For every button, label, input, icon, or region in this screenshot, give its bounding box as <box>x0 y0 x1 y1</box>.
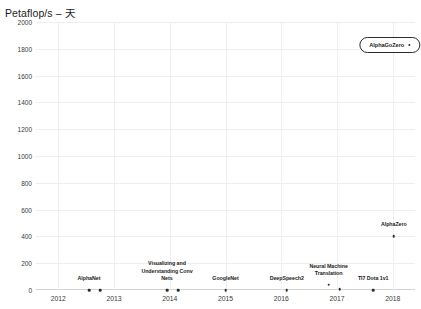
x-axis-tick-label: 2013 <box>106 295 121 302</box>
data-point-label: Neural Machine Translation <box>309 262 347 277</box>
data-point-label: Visualizing and Understanding Conv Nets <box>141 260 192 283</box>
gridline-vertical <box>226 22 227 290</box>
gridline-vertical <box>393 22 394 290</box>
callout-alphagozero[interactable]: AlphaGoZero <box>359 37 420 53</box>
gridline-vertical <box>170 22 171 290</box>
plot-area: 0200400600800100012001400160018002000201… <box>36 22 415 290</box>
y-axis-tick-label: 1800 <box>18 45 32 52</box>
x-axis-tick-label: 2017 <box>329 295 344 302</box>
chart-title: Petaflop/s – 天 <box>5 5 75 20</box>
data-point[interactable] <box>327 283 330 286</box>
y-axis-tick-label: 400 <box>21 233 32 240</box>
data-point-label: AlphaNet <box>78 275 101 283</box>
y-axis-tick-label: 1000 <box>18 153 32 160</box>
y-axis-tick-label: 600 <box>21 206 32 213</box>
data-point-label: AlphaZero <box>381 222 407 230</box>
gridline-vertical <box>337 22 338 290</box>
data-point-label: DeepSpeech2 <box>270 275 304 283</box>
data-point[interactable] <box>99 289 102 292</box>
data-point-label: GoogleNet <box>212 275 238 283</box>
y-axis-tick-label: 200 <box>21 260 32 267</box>
y-axis-tick-label: 1200 <box>18 126 32 133</box>
x-axis-tick-label: 2014 <box>162 295 177 302</box>
gridline-vertical <box>281 22 282 290</box>
data-point[interactable] <box>88 289 91 292</box>
y-axis-tick-label: 800 <box>21 179 32 186</box>
data-point[interactable] <box>338 288 341 291</box>
gridline-vertical <box>58 22 59 290</box>
callout-label: AlphaGoZero <box>369 42 404 48</box>
x-axis-tick-label: 2018 <box>385 295 400 302</box>
gridline-vertical <box>114 22 115 290</box>
data-point[interactable] <box>393 235 396 238</box>
x-axis-tick-label: 2016 <box>274 295 289 302</box>
data-point[interactable] <box>286 289 289 292</box>
data-point[interactable] <box>166 289 169 292</box>
y-axis-tick-label: 1400 <box>18 99 32 106</box>
data-point[interactable] <box>177 289 180 292</box>
x-axis-tick-label: 2012 <box>51 295 66 302</box>
y-axis-tick-label: 0 <box>28 287 32 294</box>
data-point[interactable] <box>224 289 227 292</box>
y-axis-tick-label: 1600 <box>18 72 32 79</box>
data-point[interactable] <box>372 289 375 292</box>
callout-dot-icon <box>408 44 410 46</box>
x-axis-tick-label: 2015 <box>218 295 233 302</box>
data-point-label: TI7 Dota 1v1 <box>358 275 389 283</box>
y-axis-tick-label: 2000 <box>18 19 32 26</box>
